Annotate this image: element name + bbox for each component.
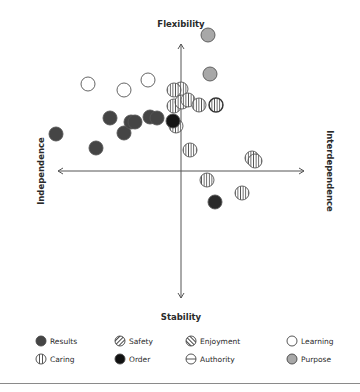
point-caring: [200, 173, 214, 187]
learning-swatch-icon: [287, 336, 297, 346]
legend-item-results: Results: [36, 336, 77, 346]
point-learning: [117, 83, 131, 97]
legend-label-authority: Authority: [200, 355, 235, 364]
point-caring: [248, 154, 262, 168]
legend-label-safety: Safety: [129, 337, 154, 346]
point-results: [128, 115, 142, 129]
legend-item-enjoyment: Enjoyment: [186, 336, 240, 346]
data-points: [49, 28, 262, 209]
point-caring: [167, 83, 181, 97]
legend-item-purpose: Purpose: [287, 354, 331, 364]
legend-label-order: Order: [129, 355, 151, 364]
results-swatch-icon: [36, 336, 46, 346]
point-authority: [209, 98, 223, 112]
point-results: [103, 111, 117, 125]
point-results: [89, 141, 103, 155]
point-order: [208, 195, 222, 209]
legend-item-safety: Safety: [115, 336, 154, 346]
legend-label-purpose: Purpose: [301, 355, 331, 364]
point-caring: [235, 186, 249, 200]
legend-label-caring: Caring: [50, 355, 75, 364]
legend: Results Safety Enjoyment Learning Caring…: [36, 336, 334, 364]
axis-label-bottom: Stability: [161, 312, 202, 322]
axis-label-right: Interdependence: [325, 130, 335, 212]
point-purpose: [201, 28, 215, 42]
legend-item-order: Order: [115, 354, 151, 364]
point-caring: [192, 98, 206, 112]
purpose-swatch-icon: [287, 354, 297, 364]
order-swatch-icon: [115, 354, 125, 364]
safety-swatch-icon: [115, 336, 125, 346]
legend-label-enjoyment: Enjoyment: [200, 337, 240, 346]
culture-scatter-chart: Flexibility Stability Independence Inter…: [0, 0, 360, 392]
caring-swatch-icon: [36, 354, 46, 364]
legend-item-learning: Learning: [287, 336, 334, 346]
bottom-divider: [0, 383, 360, 384]
axis-label-left: Independence: [36, 137, 46, 205]
legend-label-learning: Learning: [301, 337, 334, 346]
point-results: [150, 111, 164, 125]
point-learning: [81, 77, 95, 91]
point-purpose: [203, 67, 217, 81]
axis-label-top: Flexibility: [157, 19, 205, 29]
enjoyment-swatch-icon: [186, 336, 196, 346]
legend-item-caring: Caring: [36, 354, 75, 364]
point-learning: [141, 73, 155, 87]
point-order: [166, 114, 180, 128]
point-results: [49, 127, 63, 141]
point-caring: [183, 143, 197, 157]
legend-label-results: Results: [50, 337, 77, 346]
legend-item-authority: Authority: [186, 354, 235, 364]
